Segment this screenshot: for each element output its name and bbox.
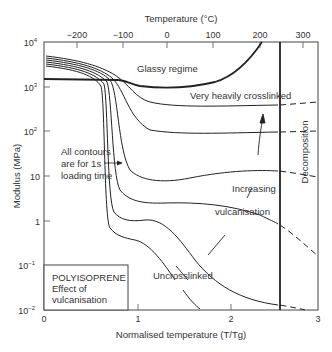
svg-text:103: 103 <box>24 82 38 93</box>
contour-pointer-arrow <box>104 161 122 165</box>
svg-text:104: 104 <box>24 37 38 48</box>
top-tick-label: −100 <box>113 30 133 40</box>
vulcanisation-label: vulcanisation <box>215 206 270 217</box>
chart: Temperature (°C) −200 −100 0 100 200 300… <box>0 0 332 352</box>
very-heavily-crosslinked-label: Very heavily crosslinked <box>190 90 291 101</box>
top-tick-label: 200 <box>252 30 267 40</box>
svg-text:10: 10 <box>30 172 40 182</box>
contours-note: are for 1s <box>61 158 101 169</box>
y-axis-ticks <box>44 87 50 221</box>
legend-title: POLYISOPRENE <box>52 272 126 283</box>
top-tick-label: 300 <box>295 30 310 40</box>
top-tick-label: −200 <box>67 30 87 40</box>
y-axis-title: Modulus (MPa) <box>11 144 22 208</box>
contours-note: All contours <box>61 146 111 157</box>
bottom-axis-ticks <box>138 304 231 310</box>
bottom-tick-label: 3 <box>315 314 320 324</box>
top-tick-label: 100 <box>205 30 220 40</box>
bottom-tick-label: 2 <box>228 314 233 324</box>
contours-note: loading time <box>61 170 112 181</box>
bottom-tick-label: 1 <box>135 314 140 324</box>
svg-text:10−1: 10−1 <box>18 260 36 271</box>
increasing-label: Increasing <box>232 183 276 194</box>
svg-text:10−2: 10−2 <box>18 305 36 316</box>
bottom-tick-label: 0 <box>41 314 46 324</box>
glassy-regime-label: Glassy regime <box>137 63 198 74</box>
top-axis-ticks <box>77 42 303 48</box>
legend-subtitle: Effect of <box>52 283 87 294</box>
decomposition-label: Decomposition <box>299 121 310 184</box>
top-axis-title: Temperature (°C) <box>145 13 218 24</box>
uncrosslinked-label: Uncrosslinked <box>153 270 213 281</box>
top-tick-label: 0 <box>164 30 169 40</box>
bottom-axis-title: Normalised temperature (T/Tg) <box>116 329 246 340</box>
svg-text:1: 1 <box>35 217 40 227</box>
legend-subtitle: vulcanisation <box>52 294 107 305</box>
svg-text:102: 102 <box>24 126 38 137</box>
